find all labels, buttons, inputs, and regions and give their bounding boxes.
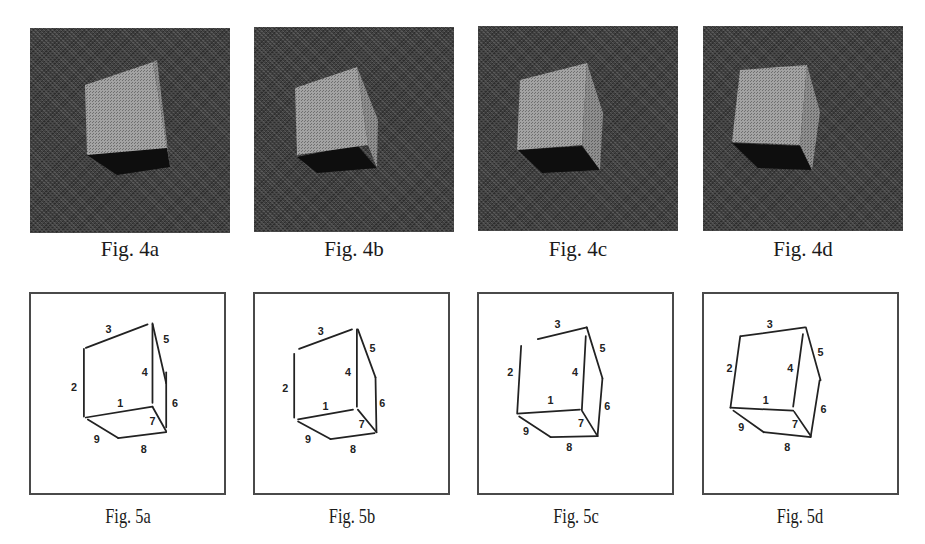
edge-label-2: 2 [71, 381, 77, 393]
edge-label-8: 8 [784, 441, 790, 453]
edge-label-5: 5 [599, 342, 605, 354]
caption-fig-5d: Fig. 5d [722, 504, 878, 529]
cube-shadow-face [732, 143, 812, 170]
caption-fig-4d: Fig. 4d [703, 237, 903, 262]
edge-label-4: 4 [787, 362, 793, 374]
edge-label-7: 7 [578, 417, 584, 429]
figure-4d-image [703, 26, 903, 231]
figure-5c-line-drawing: 354216798 [477, 292, 674, 495]
edge-label-7: 7 [359, 418, 365, 430]
edge-label-5: 5 [163, 333, 169, 345]
cube-front-face [732, 65, 807, 145]
edge-label-9: 9 [523, 425, 529, 437]
edge-label-6: 6 [172, 397, 178, 409]
edge-line-3 [86, 324, 148, 348]
edge-label-1: 1 [548, 394, 554, 406]
caption-fig-4a: Fig. 4a [30, 237, 230, 262]
edge-label-5: 5 [370, 342, 376, 354]
edge-label-9: 9 [305, 433, 311, 445]
edge-label-1: 1 [763, 394, 769, 406]
edge-line-1 [517, 410, 580, 414]
edge-line-8 [118, 432, 166, 438]
edge-label-3: 3 [554, 318, 560, 330]
edge-label-6: 6 [821, 403, 827, 415]
edge-line-1 [730, 408, 793, 411]
edge-label-7: 7 [792, 418, 798, 430]
edge-label-9: 9 [738, 421, 744, 433]
edge-line-8 [764, 432, 811, 437]
edge-label-2: 2 [507, 366, 513, 378]
edge-line-4 [582, 336, 586, 409]
edge-label-4: 4 [572, 366, 578, 378]
edge-line-6 [811, 380, 820, 436]
caption-fig-4b: Fig. 4b [254, 237, 454, 262]
edge-label-6: 6 [604, 400, 610, 412]
edge-label-8: 8 [350, 443, 356, 455]
cube-front-face [517, 63, 587, 150]
edge-line-3 [741, 327, 805, 336]
figure-4a-image [30, 28, 230, 233]
figure-5d-line-drawing: 354216798 [702, 292, 899, 495]
figure-4b-image [254, 27, 454, 232]
figure-5a-line-drawing: 354216798 [29, 292, 226, 495]
edge-label-3: 3 [318, 325, 324, 337]
edge-label-1: 1 [323, 400, 329, 412]
edge-line-2 [517, 346, 521, 413]
edge-label-9: 9 [94, 433, 100, 445]
edge-line-6 [376, 377, 377, 432]
caption-fig-4c: Fig. 4c [478, 237, 678, 262]
edge-line-9 [88, 419, 118, 438]
caption-fig-5b: Fig. 5b [274, 504, 430, 529]
edge-label-2: 2 [726, 362, 732, 374]
edge-label-1: 1 [117, 397, 123, 409]
edge-label-5: 5 [818, 346, 824, 358]
edge-line-9 [298, 421, 330, 439]
figure-4c-image [478, 26, 678, 231]
edge-label-4: 4 [142, 366, 148, 378]
edge-label-3: 3 [767, 318, 773, 330]
edge-label-8: 8 [141, 443, 147, 455]
cube-front-face [85, 62, 167, 155]
edge-label-4: 4 [345, 366, 351, 378]
edge-label-3: 3 [105, 323, 111, 335]
edge-label-6: 6 [379, 397, 385, 409]
edge-line-3 [299, 329, 352, 349]
edge-line-6 [598, 378, 603, 436]
caption-fig-5c: Fig. 5c [498, 504, 654, 529]
edge-line-8 [330, 433, 374, 439]
edge-line-7 [582, 411, 598, 436]
edge-label-7: 7 [149, 415, 155, 427]
caption-fig-5a: Fig. 5a [50, 504, 206, 529]
edge-label-8: 8 [566, 441, 572, 453]
edge-line-8 [551, 436, 598, 437]
edge-line-4 [793, 334, 803, 406]
figure-5b-line-drawing: 354216798 [253, 292, 450, 495]
edge-label-2: 2 [282, 382, 288, 394]
edge-line-3 [538, 327, 587, 339]
cube-front-face [295, 67, 368, 155]
